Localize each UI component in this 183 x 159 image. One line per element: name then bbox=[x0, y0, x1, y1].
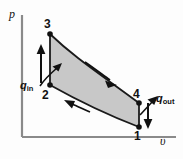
heat-out-symbol: q bbox=[156, 92, 163, 104]
state-label-2: 2 bbox=[42, 89, 49, 101]
state-label-1: 1 bbox=[134, 130, 141, 142]
heat-in-symbol: q bbox=[20, 79, 27, 91]
state-point-3-dot bbox=[47, 31, 53, 37]
pv-diagram-figure: p υ 3 2 4 1 qin qout bbox=[0, 0, 183, 159]
y-axis-label: p bbox=[9, 8, 15, 20]
heat-in-label: qin bbox=[20, 80, 33, 91]
state-point-2-dot bbox=[47, 82, 53, 88]
heat-in-arrow bbox=[37, 44, 46, 83]
heat-out-label: qout bbox=[156, 93, 174, 104]
heat-in-subscript: in bbox=[27, 84, 34, 93]
heat-out-subscript: out bbox=[163, 97, 175, 106]
x-axis-label: υ bbox=[160, 135, 166, 147]
state-label-3: 3 bbox=[44, 18, 51, 30]
cycle-shaded-area bbox=[50, 34, 139, 127]
state-label-4: 4 bbox=[133, 88, 140, 100]
state-point-4-dot bbox=[136, 100, 142, 106]
